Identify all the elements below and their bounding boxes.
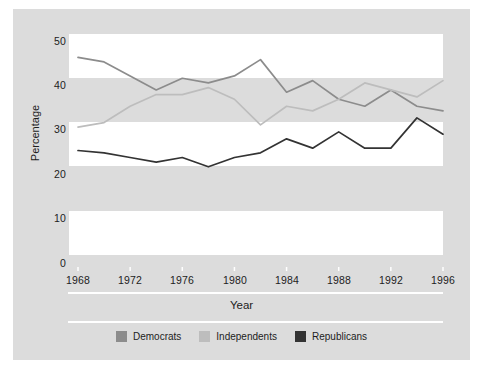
chart-legend: Democrats Independents Republicans (13, 331, 470, 342)
x-tick-1996: 1996 (421, 274, 465, 286)
x-tick-1976: 1976 (160, 274, 204, 286)
y-tick-20: 20 (40, 168, 66, 180)
legend-swatch-icon-independents (199, 331, 210, 342)
x-tick-1984: 1984 (265, 274, 309, 286)
legend-label-republicans: Republicans (312, 331, 367, 342)
y-tick-10: 10 (40, 212, 66, 224)
y-axis-title: Percentage (29, 83, 41, 183)
legend-label-democrats: Democrats (133, 331, 181, 342)
y-tick-30: 30 (40, 123, 66, 135)
series-line-independents (78, 81, 443, 128)
axis-separator-bottom (68, 321, 443, 323)
x-tick-1992: 1992 (369, 274, 413, 286)
x-tick-1968: 1968 (56, 274, 100, 286)
y-tick-40: 40 (40, 79, 66, 91)
legend-item-democrats: Democrats (116, 331, 181, 342)
legend-item-independents: Independents (199, 331, 277, 342)
x-tick-1980: 1980 (213, 274, 257, 286)
x-tick-1972: 1972 (108, 274, 152, 286)
y-tick-0: 0 (40, 257, 66, 269)
x-tick-1988: 1988 (317, 274, 361, 286)
legend-swatch-icon-republicans (295, 331, 306, 342)
y-tick-50: 50 (40, 35, 66, 47)
series-layer (78, 57, 443, 271)
legend-item-republicans: Republicans (295, 331, 367, 342)
chart-figure: 50 40 30 20 10 0 Percentage 1968 1972 19… (13, 9, 470, 360)
series-line-democrats (78, 57, 443, 111)
x-axis-title: Year (13, 299, 470, 311)
legend-swatch-icon-democrats (116, 331, 127, 342)
axis-separator-top (68, 292, 443, 294)
legend-label-independents: Independents (216, 331, 277, 342)
